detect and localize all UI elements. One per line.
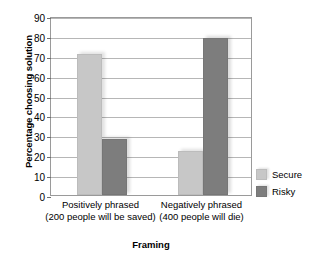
y-axis-tick <box>47 58 51 59</box>
legend-label: Secure <box>272 169 302 180</box>
y-axis-tick <box>47 177 51 178</box>
y-axis-tick <box>47 38 51 39</box>
y-axis-tick-label: 50 <box>34 92 45 103</box>
y-axis-tick-label: 40 <box>34 112 45 123</box>
x-label-line-1: Negatively phrased <box>127 199 277 211</box>
y-axis-tick-label: 80 <box>34 32 45 43</box>
y-axis-tick <box>47 117 51 118</box>
bar-secure-group-1 <box>77 54 102 195</box>
legend-label: Risky <box>272 186 295 197</box>
legend-item-risky[interactable]: Risky <box>256 183 302 200</box>
bar-risky-group-1 <box>102 139 127 195</box>
y-axis-tick <box>47 98 51 99</box>
y-axis-tick <box>47 78 51 79</box>
y-axis-tick <box>47 157 51 158</box>
legend: SecureRisky <box>256 166 302 200</box>
y-axis-tick-label: 20 <box>34 152 45 163</box>
bar-secure-group-2 <box>178 151 203 195</box>
x-label-line-2: (400 people will die) <box>127 211 277 223</box>
y-axis-tick <box>47 18 51 19</box>
legend-swatch-icon <box>256 186 267 197</box>
y-axis-tick-label: 10 <box>34 172 45 183</box>
y-axis-tick-label: 30 <box>34 132 45 143</box>
y-axis-tick-label: 60 <box>34 72 45 83</box>
legend-item-secure[interactable]: Secure <box>256 166 302 183</box>
y-axis-tick <box>47 197 51 198</box>
x-axis-title: Framing <box>50 239 252 250</box>
y-axis-tick-label: 70 <box>34 52 45 63</box>
bar-chart: Percentage choosing solution 90807060504… <box>0 0 320 259</box>
bar-risky-group-2 <box>203 38 228 195</box>
y-axis-tick <box>47 137 51 138</box>
plot-area: 9080706050403020100 <box>50 17 252 196</box>
gridline <box>51 18 251 19</box>
legend-swatch-icon <box>256 169 267 180</box>
y-axis-tick-label: 90 <box>34 13 45 24</box>
x-axis-group-label-2: Negatively phrased(400 people will die) <box>127 199 277 223</box>
y-axis-title: Percentage choosing solution <box>23 12 34 192</box>
